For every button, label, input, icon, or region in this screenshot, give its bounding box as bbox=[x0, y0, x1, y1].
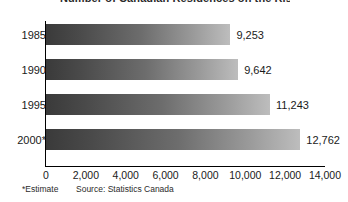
bar-row: 1995 11,243 bbox=[0, 94, 348, 115]
bar bbox=[46, 59, 238, 80]
footnote-estimate: *Estimate bbox=[22, 184, 58, 194]
category-label: 2000* bbox=[17, 134, 46, 146]
footnote-source: Source: Statistics Canada bbox=[76, 184, 174, 194]
bar-row: 2000* 12,762 bbox=[0, 129, 348, 150]
x-tick-label: 8,000 bbox=[192, 169, 218, 181]
x-tick-label: 4,000 bbox=[113, 169, 139, 181]
category-label: 1985 bbox=[22, 29, 46, 41]
bar bbox=[46, 24, 230, 45]
bar-value-label: 12,762 bbox=[306, 134, 340, 146]
bar-value-label: 9,253 bbox=[236, 29, 264, 41]
x-tick-label: 0 bbox=[43, 169, 49, 181]
footnotes: *Estimate Source: Statistics Canada bbox=[0, 184, 348, 198]
category-label: 1990 bbox=[22, 64, 46, 76]
bar-value-label: 9,642 bbox=[244, 64, 272, 76]
x-axis-line bbox=[45, 166, 325, 167]
x-tick-label: 10,000 bbox=[229, 169, 261, 181]
plot-area: 1985 9,253 1990 9,642 1995 11,243 2000* … bbox=[0, 0, 348, 202]
x-tick-label: 12,000 bbox=[269, 169, 301, 181]
bar bbox=[46, 94, 270, 115]
x-tick-label: 2,000 bbox=[73, 169, 99, 181]
bar bbox=[46, 129, 300, 150]
category-label: 1995 bbox=[22, 99, 46, 111]
x-tick-label: 14,000 bbox=[309, 169, 341, 181]
x-axis-ticks: 02,0004,0006,0008,00010,00012,00014,000 bbox=[0, 169, 348, 183]
bar-row: 1990 9,642 bbox=[0, 59, 348, 80]
bar-value-label: 11,243 bbox=[276, 99, 309, 111]
bar-row: 1985 9,253 bbox=[0, 24, 348, 45]
bar-chart: Number of Canadian Residences on the Ris… bbox=[0, 0, 348, 202]
x-tick-label: 6,000 bbox=[152, 169, 178, 181]
